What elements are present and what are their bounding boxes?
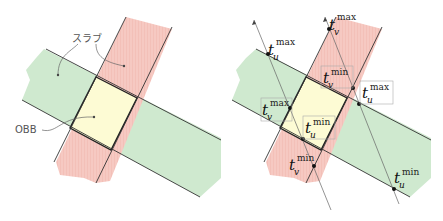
left-diagram: スラブ OBB [15, 17, 221, 197]
svg-text:max: max [337, 12, 356, 22]
svg-text:u: u [399, 180, 405, 190]
slab-diagram-canvas: スラブ OBB [0, 0, 443, 221]
slab-label: スラブ [72, 32, 102, 44]
right-diagram: t u max t v max t v min t u max t v max … [232, 12, 431, 210]
svg-text:v: v [328, 80, 333, 90]
obb-label: OBB [15, 124, 37, 135]
point-tu-min-right [392, 187, 396, 191]
svg-text:min: min [331, 67, 348, 77]
svg-text:min: min [297, 153, 314, 163]
svg-text:v: v [334, 27, 339, 37]
svg-text:min: min [402, 167, 419, 177]
point-tv-min-bottom [312, 164, 316, 168]
svg-text:v: v [267, 112, 272, 122]
svg-text:max: max [370, 82, 389, 92]
label-tu-max-right: t u max [362, 82, 389, 105]
label-tu-max-left: t u max [268, 37, 295, 62]
svg-text:u: u [310, 130, 316, 140]
svg-text:min: min [313, 117, 330, 127]
svg-text:u: u [273, 52, 279, 62]
svg-text:u: u [367, 95, 373, 105]
svg-text:max: max [270, 98, 289, 108]
svg-text:v: v [294, 167, 299, 177]
svg-text:max: max [276, 37, 295, 47]
